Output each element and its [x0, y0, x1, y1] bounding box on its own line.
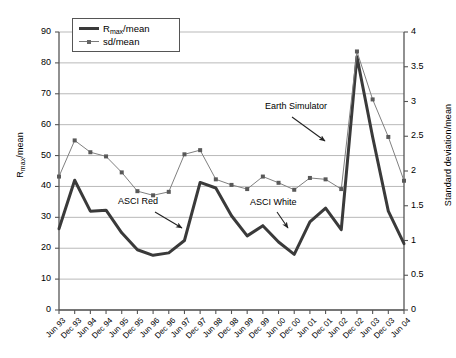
annotation-arrow-earth-simulator	[292, 117, 325, 141]
y-axis-left-tick-label: 0	[29, 304, 51, 314]
y-axis-right-tick-label: 0.5	[411, 269, 437, 279]
series-marker-sd-mean	[402, 179, 406, 183]
series-marker-sd-mean	[339, 187, 343, 191]
y-axis-left-tick-label: 60	[29, 119, 51, 129]
y-axis-left-tick-label: 50	[29, 150, 51, 160]
y-axis-right-tick-label: 3.5	[411, 61, 437, 71]
series-marker-sd-mean	[88, 150, 92, 154]
y-axis-left-tick-label: 70	[29, 88, 51, 98]
y-axis-left-tick-label: 30	[29, 211, 51, 221]
legend-label-rmax-mean: Rmax/mean	[103, 23, 150, 34]
series-marker-sd-mean	[324, 177, 328, 181]
y-axis-right-tick-label: 4	[411, 26, 437, 36]
y-axis-right-tick-label: 2.5	[411, 130, 437, 140]
series-marker-sd-mean	[57, 175, 61, 179]
series-marker-sd-mean	[230, 183, 234, 187]
legend-label-subscript: max	[110, 28, 123, 35]
series-marker-sd-mean	[214, 177, 218, 181]
series-marker-sd-mean	[261, 175, 265, 179]
y-axis-left-tick-label: 10	[29, 273, 51, 283]
series-marker-sd-mean	[167, 190, 171, 194]
legend-key-thin-line-marker	[78, 36, 100, 47]
legend-item-rmax-mean: Rmax/mean	[78, 22, 172, 35]
series-marker-sd-mean	[104, 154, 108, 158]
annotation-label-asci-red: ASCI Red	[118, 196, 158, 206]
y-axis-right-tick-label: 1.5	[411, 200, 437, 210]
series-marker-sd-mean	[386, 135, 390, 139]
y-axis-right-tick-label: 3	[411, 96, 437, 106]
series-marker-sd-mean	[292, 188, 296, 192]
annotation-label-earth-simulator: Earth Simulator	[265, 101, 327, 111]
legend-item-sd-mean: sd/mean	[78, 35, 172, 48]
annotation-label-asci-white: ASCI White	[250, 197, 297, 207]
y-axis-left-tick-label: 80	[29, 57, 51, 67]
chart-container: Rmax/mean Standard deviation/mean Rmax/m…	[0, 0, 456, 358]
y-axis-right-tick-label: 2	[411, 165, 437, 175]
y-axis-right-tick-label: 0	[411, 304, 437, 314]
y-axis-left-tick-label: 20	[29, 242, 51, 252]
series-marker-sd-mean	[135, 189, 139, 193]
series-marker-sd-mean	[371, 97, 375, 101]
y-axis-left-tick-label: 90	[29, 26, 51, 36]
legend-key-thick-line	[78, 23, 100, 34]
series-marker-sd-mean	[198, 148, 202, 152]
series-marker-sd-mean	[73, 138, 77, 142]
series-marker-sd-mean	[182, 152, 186, 156]
y-axis-left-title: Rmax/mean	[15, 105, 25, 205]
series-marker-sd-mean	[277, 181, 281, 185]
series-marker-sd-mean	[120, 170, 124, 174]
y-axis-right-tick-label: 1	[411, 235, 437, 245]
legend-label-sd-mean: sd/mean	[103, 36, 139, 47]
y-axis-right-title: Standard deviation/mean	[443, 75, 453, 235]
annotation-arrow-asci-red	[155, 212, 182, 228]
chart-plot-svg	[0, 0, 456, 358]
chart-legend: Rmax/mean sd/mean	[72, 18, 180, 52]
series-marker-sd-mean	[245, 187, 249, 191]
annotation-arrow-asci-white	[277, 212, 288, 228]
series-marker-sd-mean	[308, 176, 312, 180]
y-axis-left-title-subscript: max	[19, 158, 26, 172]
series-marker-sd-mean	[355, 49, 359, 53]
y-axis-left-tick-label: 40	[29, 180, 51, 190]
